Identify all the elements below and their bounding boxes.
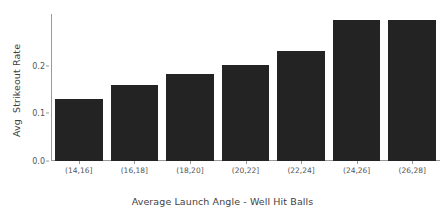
x-axis-tick-mark xyxy=(134,161,135,164)
plot-area xyxy=(51,14,440,161)
y-axis-tick-mark xyxy=(46,113,49,114)
bar xyxy=(55,99,103,161)
x-axis-tick-label: (18,20] xyxy=(176,166,203,175)
x-axis-title: Average Launch Angle - Well Hit Balls xyxy=(0,196,445,207)
x-axis-tick-labels: (14,16](16,18](18,20](20,22](22,24](24,2… xyxy=(51,161,440,191)
bar xyxy=(166,74,214,161)
x-axis-tick-label: (22,24] xyxy=(287,166,314,175)
x-axis-title-text: Average Launch Angle - Well Hit Balls xyxy=(132,196,314,207)
bar xyxy=(388,20,436,161)
x-axis-tick-mark xyxy=(79,161,80,164)
y-axis-tick-label: 0.0 xyxy=(20,157,45,166)
x-axis-tick-mark xyxy=(246,161,247,164)
x-axis-tick-label: (14,16] xyxy=(65,166,92,175)
y-axis-tick-label: 0.1 xyxy=(20,109,45,118)
x-axis-tick-mark xyxy=(190,161,191,164)
x-axis-tick-label: (20,22] xyxy=(232,166,259,175)
y-axis-tick-labels: 0.00.10.2 xyxy=(20,0,45,215)
y-axis-tick-mark xyxy=(46,161,49,162)
bar xyxy=(333,20,381,161)
x-axis-tick-mark xyxy=(301,161,302,164)
bar xyxy=(277,51,325,161)
bar-chart-figure: Avg Strikeout Rate 0.00.10.2 (14,16](16,… xyxy=(0,0,445,215)
y-axis-tick-label: 0.2 xyxy=(20,61,45,70)
bar xyxy=(222,65,270,161)
x-axis-tick-mark xyxy=(357,161,358,164)
bar xyxy=(111,85,159,161)
x-axis-tick-label: (16,18] xyxy=(121,166,148,175)
y-axis-tick-mark xyxy=(46,65,49,66)
x-axis-tick-label: (26,28] xyxy=(399,166,426,175)
x-axis-tick-label: (24,26] xyxy=(343,166,370,175)
x-axis-tick-mark xyxy=(412,161,413,164)
